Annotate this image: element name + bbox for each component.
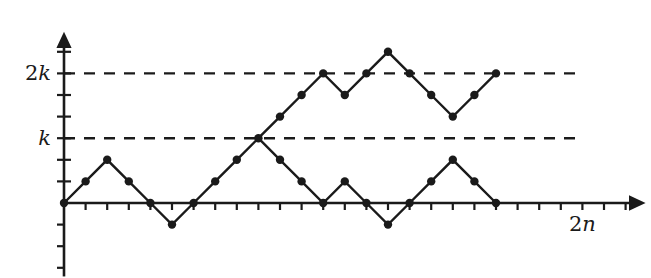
vertex-dot bbox=[362, 69, 370, 77]
lattice-path-figure: 2kk2n bbox=[0, 0, 651, 278]
vertex-dot bbox=[103, 156, 111, 164]
vertex-dot bbox=[211, 177, 219, 185]
vertex-dot bbox=[276, 156, 284, 164]
vertex-dot bbox=[427, 177, 435, 185]
axis-ticks bbox=[57, 52, 626, 268]
vertex-dot bbox=[492, 69, 500, 77]
vertex-dot bbox=[81, 177, 89, 185]
vertex-dot bbox=[233, 156, 241, 164]
vertex-dot bbox=[189, 199, 197, 207]
vertex-dot bbox=[319, 199, 327, 207]
vertex-dot bbox=[362, 199, 370, 207]
vertex-dot bbox=[125, 177, 133, 185]
x-axis-label-2n: 2n bbox=[569, 212, 596, 236]
vertex-dot bbox=[341, 177, 349, 185]
dashed-guide-lines bbox=[64, 73, 582, 138]
vertex-dot bbox=[470, 177, 478, 185]
vertex-dot bbox=[470, 91, 478, 99]
axes-group bbox=[64, 45, 632, 276]
vertex-dot bbox=[146, 199, 154, 207]
vertex-dot bbox=[297, 177, 305, 185]
y-axis-label-k: k bbox=[38, 126, 51, 150]
vertex-dot bbox=[60, 199, 68, 207]
vertex-dot bbox=[449, 156, 457, 164]
path-lower-branch bbox=[258, 138, 496, 224]
vertex-dot bbox=[276, 112, 284, 120]
y-axis-label-2k: 2k bbox=[25, 61, 51, 85]
vertex-dot bbox=[384, 48, 392, 56]
vertex-dot bbox=[319, 69, 327, 77]
vertex-dot bbox=[384, 220, 392, 228]
vertex-dot bbox=[492, 199, 500, 207]
vertex-dot bbox=[427, 91, 435, 99]
vertex-dot bbox=[254, 134, 262, 142]
path-common-prefix bbox=[64, 138, 258, 224]
walk-diagram-svg: 2kk2n bbox=[0, 0, 651, 278]
vertex-dot bbox=[405, 69, 413, 77]
vertex-dot bbox=[297, 91, 305, 99]
vertex-dot bbox=[449, 112, 457, 120]
vertex-dot bbox=[341, 91, 349, 99]
path-upper-branch bbox=[258, 52, 496, 138]
vertex-dot bbox=[168, 220, 176, 228]
vertex-dot bbox=[405, 199, 413, 207]
